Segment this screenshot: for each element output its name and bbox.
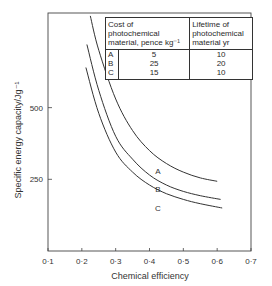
curve-label-b: B: [155, 185, 160, 194]
y-tick-label: 250: [30, 175, 44, 184]
row-lifetime: 10: [190, 68, 252, 79]
lifetime-header-line1: Lifetime of: [192, 20, 250, 29]
cost-header-line2: photochemical: [108, 29, 187, 38]
y-axis-label: Specific energy capacity/Jg⁻¹: [13, 81, 23, 198]
x-tick-label: 0·3: [110, 257, 122, 266]
cost-header-line1: Cost of: [108, 20, 187, 29]
curve-label-a: A: [155, 167, 161, 176]
row-cost: 25: [119, 59, 190, 68]
lifetime-header: Lifetime of photochemical material yr: [190, 18, 252, 50]
row-cost: 5: [119, 50, 190, 60]
curve-label-c: C: [155, 204, 161, 213]
legend-row: C 15 10: [106, 68, 252, 79]
row-lifetime: 10: [190, 50, 252, 60]
row-lifetime: 20: [190, 59, 252, 68]
x-tick-label: 0·1: [42, 257, 54, 266]
x-tick-label: 0·6: [211, 257, 223, 266]
legend-table: Cost of photochemical material, pence kg…: [105, 17, 253, 80]
x-tick-label: 0·4: [144, 257, 156, 266]
row-cost: 15: [119, 68, 190, 79]
lifetime-header-line2: photochemical: [192, 29, 250, 38]
row-label: C: [106, 68, 119, 79]
x-tick-label: 0·7: [245, 257, 257, 266]
legend-row: A 5 10: [106, 50, 252, 60]
cost-header-line3: material, pence kg⁻¹: [108, 38, 187, 47]
y-tick-label: 500: [30, 104, 44, 113]
row-label: A: [106, 50, 119, 60]
row-label: B: [106, 59, 119, 68]
legend-row: B 25 20: [106, 59, 252, 68]
x-tick-label: 0·5: [178, 257, 190, 266]
x-axis-label: Chemical efficiency: [111, 271, 189, 281]
lifetime-header-line3: material yr: [192, 38, 250, 47]
x-tick-label: 0·2: [76, 257, 88, 266]
curve-c: [86, 68, 222, 209]
cost-header: Cost of photochemical material, pence kg…: [106, 18, 190, 50]
axis-ticks: 0·10·20·30·40·50·60·7250500: [30, 104, 258, 266]
